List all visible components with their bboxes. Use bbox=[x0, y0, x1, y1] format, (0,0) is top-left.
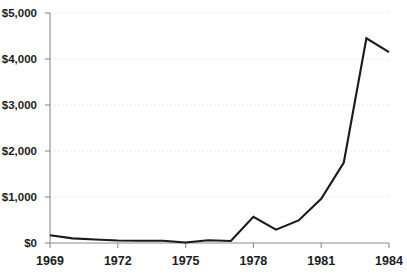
y-tick-label-2000: $2,000 bbox=[2, 145, 37, 157]
x-tick-label-1981: 1981 bbox=[307, 254, 335, 268]
x-axis-tick-labels: 196919721975197819811984 bbox=[36, 254, 403, 268]
x-tick-label-1975: 1975 bbox=[172, 254, 200, 268]
chart-canvas: $0$1,000$2,000$3,000$4,000$5,000 1969197… bbox=[0, 0, 407, 280]
x-tick-label-1984: 1984 bbox=[375, 254, 403, 268]
y-tick-label-4000: $4,000 bbox=[2, 53, 37, 65]
y-tick-label-1000: $1,000 bbox=[2, 191, 37, 203]
x-tick-label-1972: 1972 bbox=[104, 254, 132, 268]
y-tick-label-3000: $3,000 bbox=[2, 99, 37, 111]
series-line-0 bbox=[50, 38, 389, 242]
axes-group bbox=[50, 13, 389, 243]
line-chart: $0$1,000$2,000$3,000$4,000$5,000 1969197… bbox=[0, 0, 407, 280]
tick-marks-group bbox=[45, 13, 389, 248]
gridlines-group bbox=[50, 13, 389, 197]
y-tick-label-0: $0 bbox=[24, 237, 37, 249]
x-tick-label-1978: 1978 bbox=[239, 254, 267, 268]
x-tick-label-1969: 1969 bbox=[36, 254, 64, 268]
data-series-group bbox=[50, 38, 389, 242]
y-axis-tick-labels: $0$1,000$2,000$3,000$4,000$5,000 bbox=[2, 7, 37, 249]
y-tick-label-5000: $5,000 bbox=[2, 7, 37, 19]
